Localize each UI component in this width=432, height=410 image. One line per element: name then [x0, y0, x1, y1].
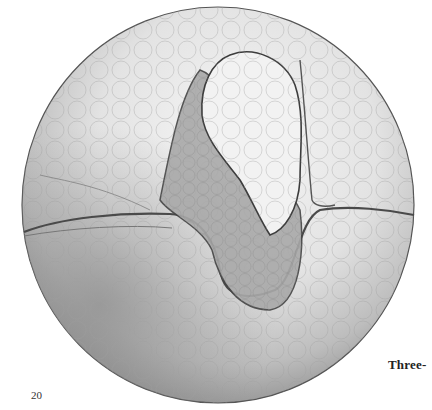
page-number: 20 — [31, 389, 42, 401]
caption-text: Three- — [388, 357, 427, 373]
embryo-illustration — [0, 0, 432, 410]
